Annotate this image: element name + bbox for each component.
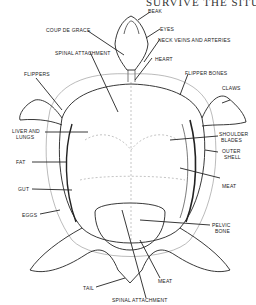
label-meat-bottom: Meat	[158, 278, 172, 284]
label-heart: Heart	[155, 56, 173, 62]
label-pelvic-bone-2: bone	[215, 228, 230, 234]
label-spinal-attachment-bottom: Spinal attachment	[112, 297, 168, 303]
label-tail: Tail	[83, 285, 94, 291]
label-spinal-attachment-top: Spinal attachment	[55, 50, 111, 56]
label-shoulder-blades-2: blades	[221, 137, 242, 143]
label-meat-right: Meat	[222, 183, 236, 189]
label-claws: Claws	[222, 85, 241, 91]
label-flippers: Flippers	[24, 71, 50, 77]
label-outer-shell-2: shell	[224, 154, 241, 160]
label-coup-de-grace: Coup de grace	[46, 27, 90, 33]
label-eyes: Eyes	[160, 26, 174, 32]
label-neck-veins: Neck veins and arteries	[158, 37, 231, 43]
label-fat: Fat	[16, 159, 25, 165]
label-liver-lungs-2: lungs	[16, 134, 34, 140]
label-eggs: Eggs	[22, 212, 37, 218]
label-gut: Gut	[18, 186, 29, 192]
label-flipper-bones: Flipper bones	[185, 70, 227, 76]
turtle-anatomy-drawing	[0, 0, 256, 305]
label-beak: Beak	[148, 8, 162, 14]
